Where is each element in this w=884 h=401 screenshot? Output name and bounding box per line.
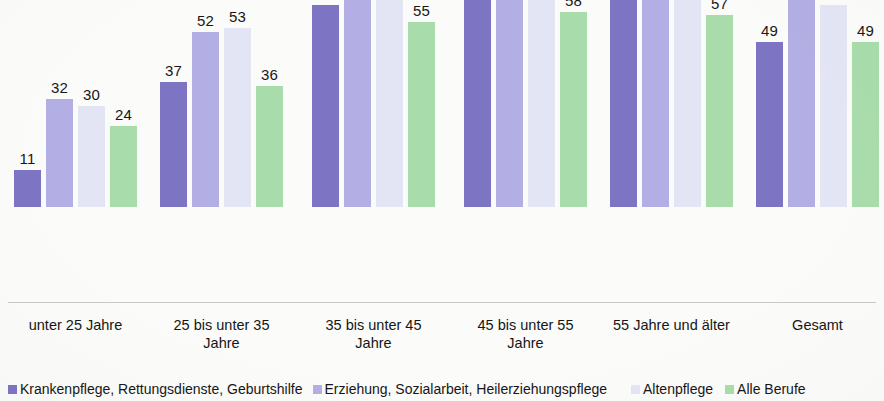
bar[interactable]: [852, 42, 879, 207]
bar-group: 60716555: [312, 0, 435, 207]
bar-group: 49626049: [756, 0, 879, 207]
bar-group: 11323024: [14, 0, 137, 207]
bar[interactable]: [464, 0, 491, 207]
bar[interactable]: [674, 0, 701, 207]
bar[interactable]: [408, 22, 435, 207]
bar[interactable]: [14, 170, 41, 207]
bar-value-label: 30: [71, 87, 112, 102]
bar-value-label: 60: [813, 0, 854, 1]
bar-slot: 55: [408, 0, 435, 207]
bar-value-label: 36: [249, 67, 290, 82]
legend-item[interactable]: Erziehung, Sozialarbeit, Heilerziehungsp…: [313, 381, 608, 397]
category-label-line: 55 Jahre und älter: [588, 316, 755, 334]
bar-slot: 36: [256, 62, 283, 207]
bar-value-label: 58: [553, 0, 594, 8]
bar-value-label: 53: [217, 9, 258, 24]
bar[interactable]: [496, 0, 523, 207]
bar[interactable]: [560, 12, 587, 207]
bar-slot: 60: [312, 0, 339, 207]
category-label-line: Jahre: [138, 334, 305, 352]
legend-item-label: Alle Berufe: [737, 381, 805, 397]
category-label: Gesamt: [734, 316, 884, 334]
category-label-line: 25 bis unter 35: [138, 316, 305, 334]
category-label: 35 bis unter 45Jahre: [290, 316, 457, 352]
bar-group: 63736658: [464, 0, 587, 207]
bar-slot: 71: [344, 0, 371, 207]
bar[interactable]: [192, 32, 219, 207]
category-label: 55 Jahre und älter: [588, 316, 755, 334]
category-label: 25 bis unter 35Jahre: [138, 316, 305, 352]
legend-color-swatch: [313, 385, 322, 394]
bar-slot: 58: [560, 0, 587, 207]
bar-slot: 52: [192, 8, 219, 207]
bar-slot: 11: [14, 146, 41, 207]
category-label-line: unter 25 Jahre: [0, 316, 159, 334]
bar[interactable]: [110, 126, 137, 207]
legend-color-swatch: [725, 385, 734, 394]
category-label-line: Gesamt: [734, 316, 884, 334]
legend-item[interactable]: Krankenpflege, Rettungsdienste, Geburtsh…: [8, 381, 303, 397]
bar[interactable]: [256, 86, 283, 207]
bar[interactable]: [224, 28, 251, 207]
x-axis-baseline: [8, 302, 876, 303]
legend-item-label: Altenpflege: [643, 381, 713, 397]
legend-color-swatch: [8, 385, 17, 394]
bar-value-label: 37: [153, 63, 194, 78]
bar[interactable]: [312, 5, 339, 207]
bar-value-label: 60: [305, 0, 346, 1]
bar-slot: 57: [706, 0, 733, 207]
bar[interactable]: [160, 82, 187, 207]
chart-legend: Krankenpflege, Rettungsdienste, Geburtsh…: [0, 379, 884, 399]
category-label-line: Jahre: [442, 334, 609, 352]
bar-value-label: 49: [749, 23, 790, 38]
bar-slot: 70: [642, 0, 669, 207]
bar[interactable]: [78, 106, 105, 207]
category-label-line: 35 bis unter 45: [290, 316, 457, 334]
bar-slot: 69: [674, 0, 701, 207]
plot-area: 1132302437525336607165556373665864706957…: [0, 0, 884, 306]
bar-slot: 24: [110, 102, 137, 207]
bar[interactable]: [788, 0, 815, 207]
legend-item-label: Erziehung, Sozialarbeit, Heilerziehungsp…: [325, 381, 608, 397]
category-label: 45 bis unter 55Jahre: [442, 316, 609, 352]
category-axis-labels: unter 25 Jahre25 bis unter 35Jahre35 bis…: [0, 316, 884, 362]
bar-value-label: 57: [699, 0, 740, 11]
bar-slot: 49: [852, 18, 879, 207]
bar[interactable]: [376, 0, 403, 207]
bar[interactable]: [344, 0, 371, 207]
bar-slot: 49: [756, 18, 783, 207]
bar[interactable]: [756, 42, 783, 207]
bar-slot: 37: [160, 58, 187, 207]
bar-group: 64706957: [610, 0, 733, 207]
bar-slot: 53: [224, 4, 251, 207]
bar-group: 37525336: [160, 0, 283, 207]
bar-value-label: 55: [401, 3, 442, 18]
bar-slot: 30: [78, 82, 105, 207]
bar-slot: 60: [820, 0, 847, 207]
legend-item-label: Krankenpflege, Rettungsdienste, Geburtsh…: [20, 381, 303, 397]
bar-value-label: 24: [103, 107, 144, 122]
category-label-line: Jahre: [290, 334, 457, 352]
bar-value-label: 11: [7, 151, 48, 166]
bar-slot: 63: [464, 0, 491, 207]
legend-item[interactable]: Alle Berufe: [725, 381, 805, 397]
category-label-line: 45 bis unter 55: [442, 316, 609, 334]
bar-slot: 64: [610, 0, 637, 207]
bar-slot: 73: [496, 0, 523, 207]
bar-slot: 62: [788, 0, 815, 207]
bar-slot: 65: [376, 0, 403, 207]
bar-slot: 32: [46, 75, 73, 207]
bar[interactable]: [820, 5, 847, 207]
bar[interactable]: [706, 15, 733, 207]
legend-item[interactable]: Altenpflege: [631, 381, 713, 397]
bar[interactable]: [642, 0, 669, 207]
bar[interactable]: [46, 99, 73, 207]
bar[interactable]: [528, 0, 555, 207]
bar[interactable]: [610, 0, 637, 207]
category-label: unter 25 Jahre: [0, 316, 159, 334]
grouped-bar-chart: 1132302437525336607165556373665864706957…: [0, 0, 884, 401]
bar-value-label: 49: [845, 23, 884, 38]
legend-color-swatch: [631, 385, 640, 394]
bar-slot: 66: [528, 0, 555, 207]
